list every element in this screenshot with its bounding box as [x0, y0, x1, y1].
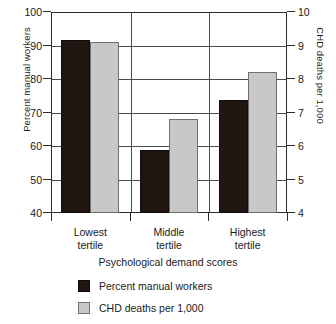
left-axis-tick-label: 70: [30, 108, 42, 118]
right-axis-tick-label: 4: [298, 208, 304, 218]
category-label-line: Middle: [124, 226, 214, 239]
right-axis-title: CHD deaths per 1,000: [315, 1, 326, 151]
x-axis-category-label: Middletertile: [124, 226, 214, 252]
right-axis-tick-label: 6: [298, 141, 304, 151]
left-axis-tick-label: 80: [30, 74, 42, 84]
legend-label-series-1: CHD deaths per 1,000: [99, 302, 203, 314]
legend-label-series-0: Percent manual workers: [99, 280, 212, 292]
chart-legend: Percent manual workers CHD deaths per 1,…: [0, 275, 336, 319]
bar-1-2: [248, 72, 277, 213]
left-axis-tick: [43, 11, 51, 12]
legend-swatch-icon-series-0: [78, 280, 90, 292]
left-axis-tick-label: 60: [30, 141, 42, 151]
right-axis-tick: [287, 112, 295, 113]
x-axis-tick: [130, 213, 131, 221]
x-axis-tick: [51, 213, 52, 221]
left-axis-tick: [43, 78, 51, 79]
right-axis-tick-label: 5: [298, 175, 304, 185]
bar-0-0: [61, 40, 90, 213]
bar-0-2: [219, 100, 248, 213]
right-axis-tick-label: 9: [298, 41, 304, 51]
category-label-line: Lowest: [45, 226, 135, 239]
right-axis-tick: [287, 145, 295, 146]
legend-item-percent-manual-workers: Percent manual workers: [0, 275, 336, 297]
right-axis-tick-label: 7: [298, 108, 304, 118]
right-axis-tick: [287, 45, 295, 46]
group-separator: [131, 13, 132, 212]
left-axis-tick: [43, 179, 51, 180]
left-axis-tick-label: 90: [30, 41, 42, 51]
bar-1-0: [90, 42, 119, 213]
bar-1-1: [169, 119, 198, 213]
right-axis-tick-label: 10: [298, 7, 310, 17]
left-axis-tick: [43, 45, 51, 46]
x-axis-tick: [208, 213, 209, 221]
category-label-line: tertile: [124, 239, 214, 252]
category-label-line: tertile: [203, 239, 293, 252]
left-axis-tick-label: 40: [30, 208, 42, 218]
left-axis-tick-label: 50: [30, 175, 42, 185]
left-axis-tick-label: 100: [24, 7, 42, 17]
x-axis-tick: [287, 213, 288, 221]
right-axis-tick: [287, 78, 295, 79]
right-axis-tick: [287, 179, 295, 180]
x-axis-category-label: Lowesttertile: [45, 226, 135, 252]
left-axis-tick: [43, 212, 51, 213]
group-separator: [209, 13, 210, 212]
legend-item-chd-deaths-per-1000: CHD deaths per 1,000: [0, 297, 336, 319]
bar-chart-figure: Percent manual workers CHD deaths per 1,…: [0, 0, 336, 324]
legend-swatch-icon-series-1: [78, 302, 90, 314]
x-axis-category-label: Highesttertile: [203, 226, 293, 252]
left-axis-tick: [43, 145, 51, 146]
category-label-line: Highest: [203, 226, 293, 239]
right-axis-tick: [287, 11, 295, 12]
left-axis-tick: [43, 112, 51, 113]
right-axis-tick-label: 8: [298, 74, 304, 84]
bar-0-1: [140, 150, 169, 213]
x-axis-label: Psychological demand scores: [0, 256, 336, 268]
right-axis-tick: [287, 212, 295, 213]
category-label-line: tertile: [45, 239, 135, 252]
